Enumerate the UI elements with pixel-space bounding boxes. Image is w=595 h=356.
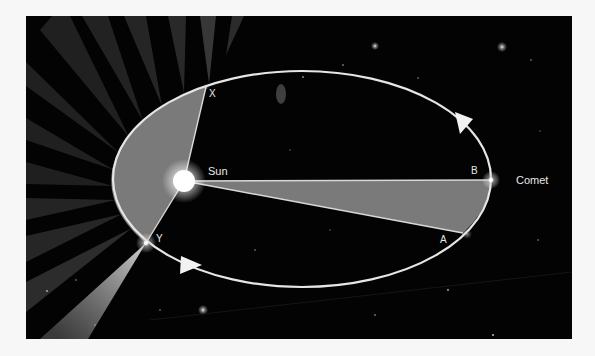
orbit-diagram [26,16,572,339]
nebula-blob [276,84,286,104]
label-a: A [440,235,447,245]
label-comet: Comet [516,175,548,186]
label-b: B [471,166,478,176]
label-sun: Sun [208,166,228,177]
sun-icon [173,170,195,192]
label-y: Y [156,234,163,244]
diagram-panel: X Sun B Comet A Y [26,16,572,339]
aphelion-sector [184,180,491,233]
orbit-arrow-lower [180,256,202,274]
label-x: X [209,89,216,99]
